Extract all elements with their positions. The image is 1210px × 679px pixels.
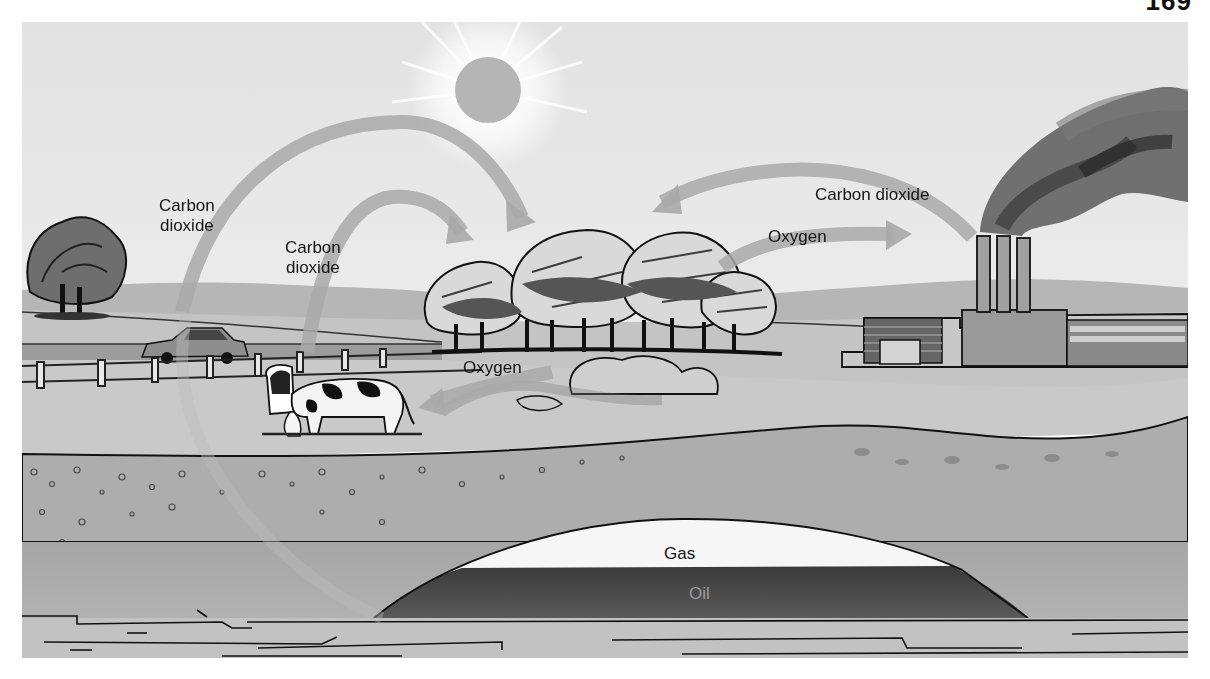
smokestack — [997, 236, 1010, 312]
page-number: 169 — [1146, 0, 1192, 17]
smokestack — [1017, 238, 1030, 312]
label-oil: Oil — [689, 584, 710, 604]
carbon-cycle-illustration: Carbon dioxide Carbon dioxide Carbon dio… — [22, 22, 1188, 658]
smokestack — [977, 236, 990, 312]
label-carbon-dioxide-car: Carbon dioxide — [159, 196, 215, 236]
scene-artwork — [22, 22, 1188, 658]
label-carbon-dioxide-factory: Carbon dioxide — [815, 185, 929, 205]
label-oxygen-factory: Oxygen — [768, 227, 827, 247]
label-gas: Gas — [664, 544, 695, 564]
label-oxygen-cow: Oxygen — [463, 358, 522, 378]
label-carbon-dioxide-cow: Carbon dioxide — [285, 238, 341, 278]
